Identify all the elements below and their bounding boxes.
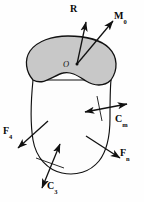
vector-label-M0: M0 [114, 11, 127, 24]
vector-label-F4: F4 [3, 126, 12, 139]
diagram-canvas [0, 0, 144, 202]
vector-label-Fn-subscript: n [126, 155, 130, 162]
vector-label-Fn: Fn [120, 148, 130, 161]
vector-label-C3: C3 [47, 181, 57, 194]
vector-label-F4-subscript: 4 [9, 133, 12, 140]
vector-label-C3-subscript: 3 [54, 188, 57, 195]
body-outline [31, 80, 111, 174]
cut-section-surface [26, 36, 116, 85]
vector-label-Cm: Cm [115, 114, 128, 127]
vector-label-M0-subscript: 0 [123, 18, 126, 25]
vector-label-R: R [70, 4, 77, 17]
point-label-O: O [63, 60, 69, 69]
vector-label-R-base: R [70, 3, 77, 14]
free-body-diagram-figure: R M0 O Cm Fn F4 C3 [0, 0, 144, 202]
vector-label-Cm-subscript: m [122, 121, 127, 128]
